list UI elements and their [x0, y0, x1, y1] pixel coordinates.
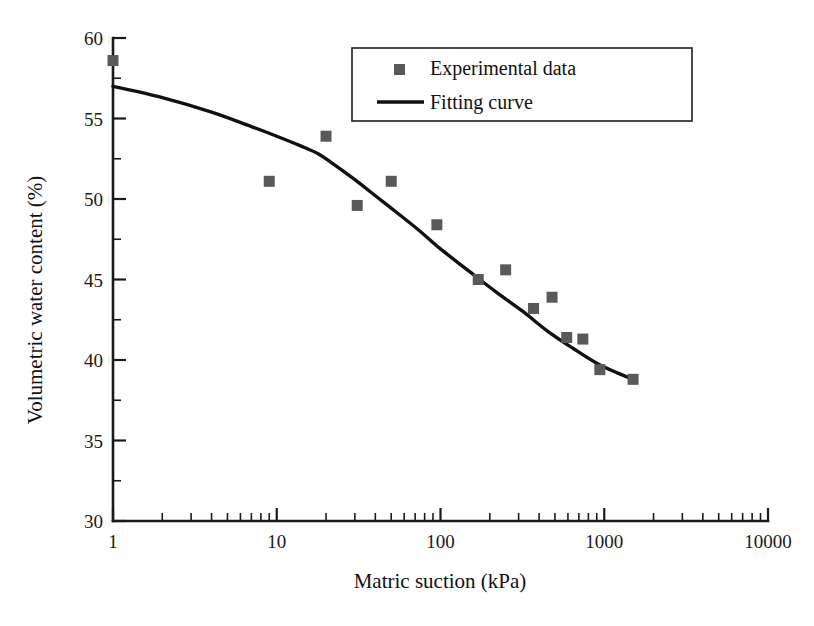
- legend-label-experimental-data: Experimental data: [430, 57, 576, 80]
- x-tick-label: 10: [267, 531, 286, 552]
- y-tick-label: 55: [84, 109, 103, 130]
- data-point-marker: [500, 264, 511, 275]
- y-axis-title: Volumetric water content (%): [23, 176, 47, 425]
- chart-legend: Experimental data Fitting curve: [352, 48, 692, 121]
- x-tick-label: 1000: [585, 531, 623, 552]
- data-point-marker: [547, 292, 558, 303]
- x-axis-title: Matric suction (kPa): [354, 569, 527, 593]
- data-point-marker: [108, 55, 119, 66]
- fitting-curve-path: [113, 86, 633, 379]
- x-axis-ticks: [113, 508, 768, 521]
- y-tick-label: 60: [84, 28, 103, 49]
- y-tick-label: 30: [84, 511, 103, 532]
- y-axis-tick-labels: 30354045505560: [84, 28, 103, 532]
- y-tick-label: 35: [84, 431, 103, 452]
- y-tick-label: 40: [84, 350, 103, 371]
- chart-figure: Volumetric water content (%) Matric suct…: [0, 0, 814, 626]
- x-tick-label: 10000: [744, 531, 792, 552]
- y-axis-ticks: [113, 38, 126, 521]
- x-tick-label: 1: [108, 531, 118, 552]
- fitting-curve-series: [113, 86, 633, 379]
- legend-label-fitting-curve: Fitting curve: [430, 91, 533, 114]
- data-point-marker: [577, 334, 588, 345]
- y-axis-title-group: Volumetric water content (%): [23, 176, 47, 425]
- data-point-marker: [321, 131, 332, 142]
- data-point-marker: [352, 200, 363, 211]
- x-tick-label: 100: [426, 531, 455, 552]
- data-point-marker: [264, 176, 275, 187]
- x-axis-tick-labels: 110100100010000: [108, 531, 792, 552]
- data-point-marker: [628, 374, 639, 385]
- data-point-marker: [528, 303, 539, 314]
- x-axis-title-group: Matric suction (kPa): [354, 569, 527, 593]
- data-point-marker: [386, 176, 397, 187]
- data-point-marker: [431, 219, 442, 230]
- soil-water-characteristic-curve-chart: Volumetric water content (%) Matric suct…: [0, 0, 814, 626]
- y-tick-label: 50: [84, 189, 103, 210]
- data-point-marker: [473, 274, 484, 285]
- data-point-marker: [561, 332, 572, 343]
- y-tick-label: 45: [84, 270, 103, 291]
- legend-marker-square: [394, 64, 405, 75]
- data-point-marker: [594, 364, 605, 375]
